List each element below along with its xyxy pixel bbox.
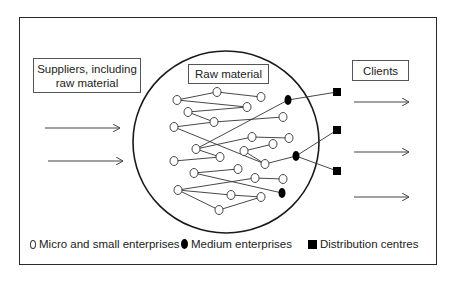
micro-enterprise-node [174,186,182,195]
network-edge [177,92,217,100]
micro-enterprise-node [279,175,287,184]
legend-label: Distribution centres [320,238,418,250]
micro-enterprise-node [213,88,221,97]
micro-enterprise-node [173,96,181,105]
filled-circle-icon [181,239,188,249]
filled-square-icon [308,240,317,249]
micro-enterprise-node [216,153,224,162]
micro-enterprise-node [215,206,223,215]
micro-enterprise-node [240,147,248,156]
micro-enterprise-node [257,93,265,102]
micro-enterprise-node [285,134,293,143]
micro-enterprise-node [184,108,192,117]
micro-enterprise-node [251,174,259,183]
distribution-centre-node [333,88,341,96]
network-edge [252,137,289,138]
distribution-centre-node [333,126,341,134]
micro-enterprise-node [190,169,198,178]
clients-box: Clients [352,60,409,81]
outbound-arrows [354,102,409,197]
distribution-centre-node [333,167,341,175]
network-edge [177,100,247,107]
network-edge [296,156,337,171]
micro-enterprise-node [269,140,277,149]
legend-distribution: Distribution centres [308,238,418,250]
legend-label: Micro and small enterprises [39,238,180,250]
micro-enterprise-node [210,118,218,127]
legend-label: Medium enterprises [191,238,292,250]
network-edge [174,157,220,161]
network-edge [194,173,282,193]
network-edge [231,195,261,197]
network-edge [174,122,214,127]
micro-enterprise-node [248,133,256,142]
network-edge [296,130,337,156]
micro-enterprise-node [227,191,235,200]
network-edge [219,197,261,210]
medium-enterprise-node [293,151,300,161]
network-edge [194,169,238,173]
medium-enterprise-node [285,95,292,105]
suppliers-box: Suppliers, including raw material [33,58,141,93]
network-edge [188,107,247,112]
open-circle-icon [30,240,36,249]
micro-enterprise-node [170,123,178,132]
micro-enterprise-node [257,193,265,202]
micro-enterprise-node [192,145,200,154]
micro-enterprise-node [170,157,178,166]
inbound-arrows [45,128,123,161]
network-edge [288,92,337,100]
micro-enterprise-node [243,103,251,112]
distribution-centres [333,88,341,175]
network-edge [265,156,296,164]
network-edge [217,92,261,97]
raw-material-box: Raw material [188,64,269,84]
legend-micro-small: Micro and small enterprises [30,238,180,250]
micro-enterprise-node [279,113,287,122]
legend-medium: Medium enterprises [181,238,292,250]
micro-enterprise-node [261,160,269,169]
micro-enterprise-node [234,165,242,174]
medium-enterprise-node [279,188,286,198]
